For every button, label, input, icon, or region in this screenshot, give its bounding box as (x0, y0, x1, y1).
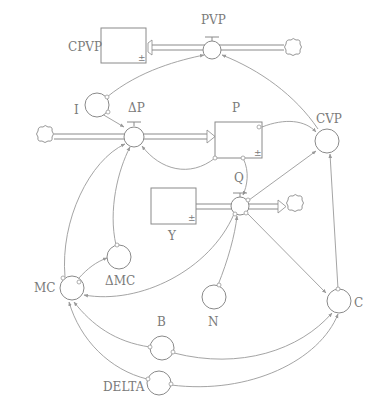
stock-cpvp[interactable]: ± (101, 28, 146, 63)
link-i-to-dp (102, 114, 124, 127)
cloud-source-pvp-icon (285, 39, 302, 56)
link-delta-to-mc (69, 302, 147, 379)
valve-q-label: Q (234, 171, 244, 185)
stock-cpvp-label: CPVP (68, 40, 102, 54)
link-p-to-dp (142, 146, 215, 169)
aux-dmc-label: ΔMC (105, 274, 135, 288)
stock-marker: ± (138, 53, 146, 63)
aux-dmc[interactable] (107, 245, 131, 269)
link-c-to-cvp (330, 154, 338, 289)
aux-cvp[interactable] (315, 129, 339, 153)
aux-c-label: C (354, 296, 363, 310)
valve-pvp-label: PVP (201, 13, 226, 27)
link-dmc-to-dp (113, 147, 130, 245)
cloud-sink-q-icon (287, 195, 304, 212)
link-p-to-cvp (262, 121, 316, 132)
aux-b[interactable] (150, 336, 174, 360)
cloud-source-dp-icon (37, 126, 54, 143)
aux-c[interactable] (327, 289, 351, 313)
aux-cvp-label: CVP (316, 112, 342, 126)
link-q-to-c (247, 213, 326, 293)
valve-pvp[interactable] (203, 37, 221, 59)
stock-y-label: Y (167, 229, 177, 243)
aux-n[interactable] (202, 285, 226, 309)
aux-n-label: N (208, 315, 219, 329)
valve-dp[interactable] (124, 122, 144, 147)
link-b-to-mc (74, 302, 150, 347)
stock-flow-diagram: ± CPVP ± P ± Y PVP ΔP Q I CVP ΔMC MC N C (0, 0, 379, 411)
valve-dp-label: ΔP (128, 101, 145, 115)
aux-delta[interactable] (147, 371, 171, 395)
link-mc-to-dmc (78, 258, 107, 279)
aux-b-label: B (157, 315, 166, 329)
aux-mc-label: MC (34, 281, 55, 295)
aux-delta-label: DELTA (103, 380, 145, 394)
link-cvp-to-pvp (222, 55, 318, 129)
stock-marker: ± (188, 213, 196, 223)
stock-p-label: P (232, 101, 240, 115)
stock-p[interactable]: ± (215, 122, 262, 158)
stock-y[interactable]: ± (151, 188, 196, 224)
aux-i-label: I (74, 103, 79, 117)
link-delta-to-c (171, 314, 338, 387)
stock-marker: ± (254, 148, 262, 158)
